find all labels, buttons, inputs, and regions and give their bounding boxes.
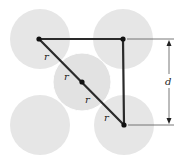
diagram-svg: r r r r d: [0, 0, 184, 164]
point-center: [79, 79, 84, 84]
arrow-up-icon: [167, 40, 172, 46]
circle-bottom-left: [10, 95, 70, 155]
diagram-canvas: r r r r d: [0, 0, 184, 164]
label-d: d: [165, 76, 171, 87]
point-bottom-right: [121, 122, 126, 127]
point-top-left: [36, 36, 41, 41]
triangle-right-edge: [123, 39, 124, 125]
point-top-right: [120, 36, 125, 41]
arrow-down-icon: [167, 118, 172, 124]
